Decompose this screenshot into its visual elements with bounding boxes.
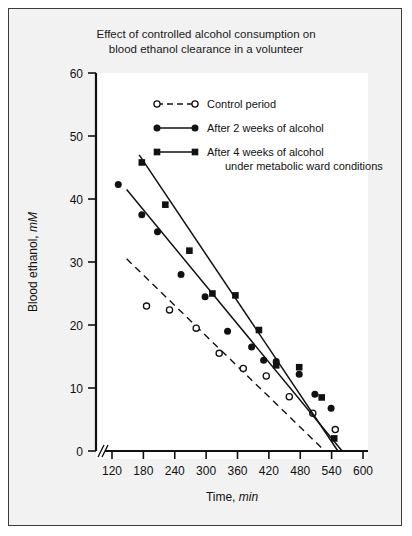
legend-marker-right bbox=[192, 149, 199, 156]
x-axis-title: Time, min bbox=[206, 490, 259, 504]
x-tick-label: 120 bbox=[102, 464, 122, 478]
data-point bbox=[138, 211, 145, 218]
data-point bbox=[331, 435, 338, 442]
data-point bbox=[273, 362, 280, 369]
x-tick-label: 600 bbox=[353, 464, 373, 478]
data-point bbox=[296, 371, 303, 378]
data-point bbox=[263, 373, 269, 379]
y-tick-label: 40 bbox=[70, 193, 84, 207]
data-point bbox=[178, 271, 185, 278]
data-point bbox=[216, 350, 222, 356]
legend-label: Control period bbox=[207, 98, 276, 110]
data-point bbox=[143, 303, 149, 309]
x-tick-label: 540 bbox=[322, 464, 342, 478]
y-axis-title-text: Blood ethanol, bbox=[26, 232, 40, 312]
legend-marker-left bbox=[154, 125, 161, 132]
x-tick-label: 420 bbox=[259, 464, 279, 478]
data-point bbox=[186, 247, 193, 254]
y-tick-label: 10 bbox=[70, 382, 84, 396]
data-point bbox=[328, 405, 335, 412]
data-point bbox=[332, 426, 338, 432]
data-point bbox=[296, 364, 303, 371]
x-tick-label: 480 bbox=[290, 464, 310, 478]
data-point bbox=[209, 290, 216, 297]
data-point bbox=[139, 159, 146, 166]
chart-svg: 0102030405060 12018024030036042048054060… bbox=[9, 9, 403, 527]
y-tick-label: 50 bbox=[70, 130, 84, 144]
data-point bbox=[248, 344, 255, 351]
data-point bbox=[286, 394, 292, 400]
legend-label: After 2 weeks of alcohol bbox=[207, 122, 324, 134]
legend-label: After 4 weeks of alcohol bbox=[207, 146, 324, 158]
data-point bbox=[256, 327, 263, 334]
data-point bbox=[260, 357, 267, 364]
y-axis-title-units: mM bbox=[26, 212, 40, 232]
legend-marker-right bbox=[192, 125, 199, 132]
y-axis-title: Blood ethanol, mM bbox=[26, 212, 40, 312]
y-axis-ticks: 0102030405060 bbox=[70, 67, 96, 459]
y-tick-label: 30 bbox=[70, 256, 84, 270]
data-point bbox=[240, 365, 246, 371]
data-point bbox=[202, 293, 209, 300]
data-point bbox=[154, 228, 161, 235]
x-tick-label: 240 bbox=[165, 464, 185, 478]
data-point bbox=[193, 325, 199, 331]
x-tick-label: 180 bbox=[133, 464, 153, 478]
x-axis-title-units: min bbox=[239, 490, 259, 504]
data-point bbox=[311, 391, 318, 398]
data-point bbox=[166, 307, 172, 313]
figure-panel: Effect of controlled alcohol consumption… bbox=[8, 8, 402, 526]
legend-label-second-line: under metabolic ward conditions bbox=[225, 160, 383, 172]
data-point bbox=[232, 292, 239, 299]
data-point bbox=[318, 394, 325, 401]
data-point bbox=[224, 328, 231, 335]
x-tick-label: 360 bbox=[227, 464, 247, 478]
y-tick-label: 20 bbox=[70, 319, 84, 333]
y-tick-label: 0 bbox=[76, 445, 83, 459]
y-tick-label: 60 bbox=[70, 67, 84, 81]
data-point bbox=[115, 181, 122, 188]
legend-marker-left bbox=[154, 101, 160, 107]
data-point bbox=[162, 201, 169, 208]
legend-marker-left bbox=[154, 149, 161, 156]
x-tick-label: 300 bbox=[196, 464, 216, 478]
legend-marker-right bbox=[192, 101, 198, 107]
x-axis-title-text: Time, bbox=[206, 490, 239, 504]
